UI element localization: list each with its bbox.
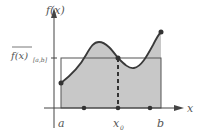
- mean-value-diagram: f(x) x f(x) [a,b] a x 0 b: [0, 0, 199, 138]
- x-axis-dot-x0: [116, 106, 121, 111]
- x-axis-dot-2: [148, 106, 153, 111]
- x-axis-label: x: [187, 102, 194, 115]
- right-endpoint-dot: [159, 30, 164, 35]
- mean-label: f(x): [10, 50, 28, 61]
- x-axis-arrow-icon: [174, 105, 184, 111]
- x-axis-dot-1: [82, 106, 87, 111]
- left-endpoint-dot: [59, 81, 64, 86]
- tick-label-b: b: [157, 117, 164, 130]
- tick-label-a: a: [58, 117, 65, 130]
- tick-label-x0-subscript: 0: [120, 124, 124, 131]
- mean-label-subscript: [a,b]: [33, 56, 48, 63]
- x0-curve-dot: [116, 56, 121, 61]
- tick-label-x0: x: [113, 117, 120, 130]
- y-axis-label: f(x): [45, 4, 65, 17]
